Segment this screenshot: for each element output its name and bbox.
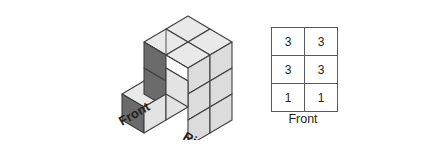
- table-cell-r3c1: 1: [272, 84, 305, 112]
- table-front-caption: Front: [264, 112, 342, 126]
- table-cell-r3c2: 1: [305, 84, 338, 112]
- table-cell-r2c2: 3: [305, 56, 338, 84]
- height-plan-table: 3 3 3 3 1 1: [271, 27, 335, 112]
- table-row: 3 3: [272, 56, 338, 84]
- table-cell-r1c2: 3: [305, 28, 338, 56]
- height-plan-grid: 3 3 3 3 1 1: [271, 27, 338, 112]
- table-cell-r1c1: 3: [272, 28, 305, 56]
- isometric-cube-stack: Front Right: [108, 8, 244, 140]
- figure-root: Front Right 3 3 3 3 1 1 Front: [0, 0, 431, 146]
- table-row: 1 1: [272, 84, 338, 112]
- table-row: 3 3: [272, 28, 338, 56]
- table-cell-r2c1: 3: [272, 56, 305, 84]
